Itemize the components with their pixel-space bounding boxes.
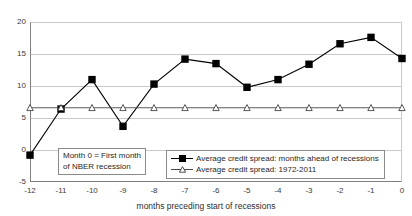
x-tick--12: -12 <box>19 187 41 195</box>
credit-spread-line-chart: 20151050-5 -12-11-10-9-8-7-6-5-4-3-2-10 … <box>0 0 412 216</box>
x-tick--2: -2 <box>329 187 351 195</box>
x-tick--5: -5 <box>236 187 258 195</box>
legend-label-1: Average credit spread: months ahead of r… <box>196 153 379 164</box>
y-tick-0: 0 <box>2 146 26 154</box>
x-tick--3: -3 <box>298 187 320 195</box>
y-tick-10: 10 <box>2 82 26 90</box>
legend-item-avg-spread-1972-2011: Average credit spread: 1972-2011 <box>171 164 379 175</box>
chart-legend: Average credit spread: months ahead of r… <box>166 150 385 179</box>
gridline-y-20 <box>31 22 401 23</box>
annotation-line-2: of NBER recession <box>63 162 141 173</box>
open-triangle-marker-icon <box>171 164 193 175</box>
x-tick--6: -6 <box>205 187 227 195</box>
y-tick-20: 20 <box>2 18 26 26</box>
x-tick--11: -11 <box>50 187 72 195</box>
x-tick--1: -1 <box>360 187 382 195</box>
y-tick-5: 5 <box>2 114 26 122</box>
legend-item-avg-spread-months-ahead: Average credit spread: months ahead of r… <box>171 153 379 164</box>
x-tick--7: -7 <box>174 187 196 195</box>
x-tick--9: -9 <box>112 187 134 195</box>
x-tick--4: -4 <box>267 187 289 195</box>
x-tick--10: -10 <box>81 187 103 195</box>
annotation-line-1: Month 0 = First month <box>63 151 141 162</box>
x-tick--8: -8 <box>143 187 165 195</box>
gridline-y-10 <box>31 86 401 87</box>
y-tick-15: 15 <box>2 50 26 58</box>
gridline-y-5 <box>31 118 401 119</box>
month-zero-annotation: Month 0 = First month of NBER recession <box>58 148 146 175</box>
gridline-y-15 <box>31 54 401 55</box>
x-tick-0: 0 <box>391 187 412 195</box>
filled-square-marker-icon <box>171 153 193 164</box>
x-axis-title: months preceding start of recessions <box>0 201 412 211</box>
y-tick--5: -5 <box>2 178 26 186</box>
legend-label-2: Average credit spread: 1972-2011 <box>196 164 316 175</box>
